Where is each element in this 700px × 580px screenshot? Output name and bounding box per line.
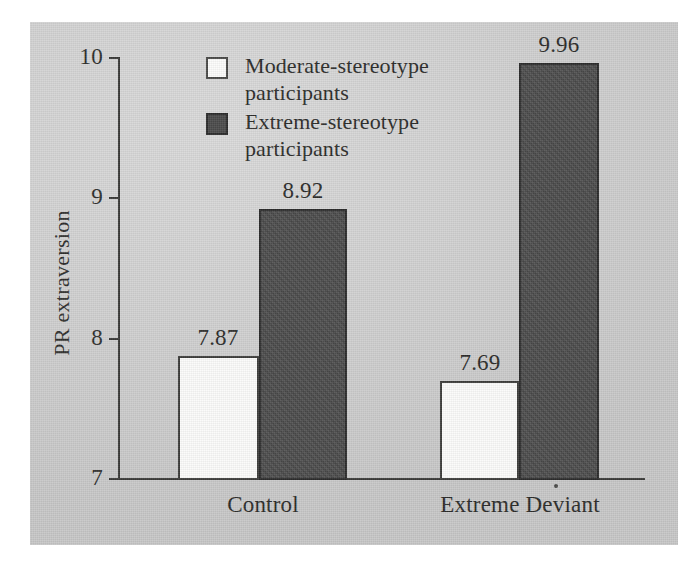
bar-value-control-extreme: 8.92 [243,179,363,202]
legend-item-label: Extreme-stereotype participants [245,108,496,162]
y-tick-mark [109,338,120,340]
scan-speck-artifact [554,484,558,488]
y-tick-mark [109,478,120,480]
chart-panel: 10 9 8 7 PR extraversion 7.87 8.92 [30,22,678,545]
plot-area: 10 9 8 7 PR extraversion 7.87 8.92 [30,22,678,545]
y-tick-label: 7 [61,466,103,489]
legend: Moderate-stereotype participants Extreme… [206,52,496,164]
light-square-icon [206,57,228,79]
bar-extremedeviant-moderate[interactable] [440,381,519,480]
x-category-label-control: Control [183,492,343,518]
bar-extremedeviant-extreme[interactable] [519,63,599,480]
bar-control-extreme[interactable] [259,209,347,480]
y-axis-title: PR extraversion [49,173,75,393]
bar-control-moderate[interactable] [178,356,259,480]
y-tick-mark [109,57,120,59]
bar-value-extremedeviant-extreme: 9.96 [499,33,619,56]
legend-item-label: Moderate-stereotype participants [245,52,496,106]
figure-page: 10 9 8 7 PR extraversion 7.87 8.92 [0,0,700,580]
y-tick-mark [109,197,120,199]
y-axis-line [118,57,120,478]
legend-item-extreme-stereotype[interactable]: Extreme-stereotype participants [206,108,496,162]
legend-item-moderate-stereotype[interactable]: Moderate-stereotype participants [206,52,496,106]
y-tick-label: 10 [61,45,103,68]
x-category-label-extreme-deviant: Extreme Deviant [439,492,601,518]
dark-square-icon [206,113,228,135]
